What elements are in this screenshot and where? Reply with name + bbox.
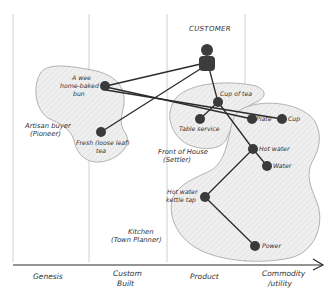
svg-text:A wee: A wee [71,74,91,81]
svg-text:tea: tea [96,147,106,154]
svg-text:kettle tap: kettle tap [166,196,196,204]
region-label-artisan: Artisan buyer (Pioneer) [24,122,72,138]
axis-label-genesis: Genesis [33,272,63,281]
svg-text:Kitchen: Kitchen [128,228,154,236]
svg-text:Plate: Plate [256,115,272,122]
axis-label-product: Product [190,272,220,281]
svg-text:Table service: Table service [179,125,220,132]
region-label-kitchen: Kitchen (Town Planner) [111,228,162,244]
svg-text:Hot water: Hot water [259,145,290,152]
axis-label-custom: Custom [113,269,142,278]
svg-text:home-baked: home-baked [60,82,99,89]
svg-text:Power: Power [262,242,281,249]
customer-icon[interactable]: CUSTOMER [189,25,231,71]
svg-text:Front of House: Front of House [158,148,208,156]
customer-label: CUSTOMER [189,25,231,33]
svg-text:(Pioneer): (Pioneer) [30,130,61,138]
svg-text:Fresh (loose leaf): Fresh (loose leaf) [76,139,130,146]
svg-text:Water: Water [273,162,292,169]
svg-text:(Town Planner): (Town Planner) [111,236,162,244]
axis-label-commodity: Commodity [262,269,306,278]
svg-text:Cup of tea: Cup of tea [220,90,252,98]
svg-text:(Settler): (Settler) [163,156,191,164]
svg-text:bun: bun [73,90,85,97]
svg-text:Hot water: Hot water [167,188,198,195]
region-label-front-of-house: Front of House (Settler) [158,148,208,164]
axis-label-built: Built [117,279,135,288]
evolution-axis: Genesis Custom Built Product Commodity /… [13,259,323,288]
wardley-map-diagram: CUSTOMER A wee home-baked bun Fresh (loo… [0,0,336,297]
svg-text:Cup: Cup [288,115,300,123]
svg-text:Artisan buyer: Artisan buyer [24,122,72,130]
axis-label-utility: /utility [267,279,292,288]
